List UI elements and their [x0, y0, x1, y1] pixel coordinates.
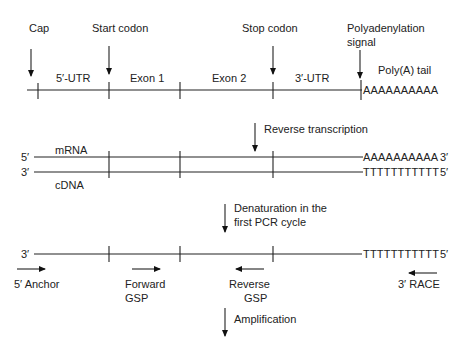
polya-tail-label: Poly(A) tail [378, 64, 431, 77]
race3-label: 3′ RACE [398, 278, 440, 291]
strand-3prime-end: 3′ [21, 248, 29, 261]
mrna-polya-tail: AAAAAAAAAA [363, 151, 438, 164]
cdna-5prime-end: 5′ [440, 166, 448, 179]
amplification-label: Amplification [234, 313, 296, 326]
reverse-gsp-label-line1: Reverse [229, 278, 270, 291]
polya-sequence: AAAAAAAAAA [363, 84, 438, 97]
exon1-label: Exon 1 [130, 72, 164, 85]
forward-gsp-label-line1: Forward [125, 278, 165, 291]
polyadenylation-signal-label-line2: signal [347, 36, 376, 49]
utr3-label: 3′-UTR [295, 72, 329, 85]
reverse-transcription-label: Reverse transcription [264, 123, 368, 136]
mrna-3prime-end: 3′ [440, 151, 448, 164]
forward-gsp-label-line2: GSP [125, 292, 148, 305]
strand-polyt-tail: TTTTTTTTTTT [363, 248, 439, 261]
utr5-label: 5′-UTR [56, 72, 90, 85]
polyadenylation-signal-label-line1: Polyadenylation [347, 22, 425, 35]
strand-5prime-end: 5′ [440, 248, 448, 261]
cdna-polyt-tail: TTTTTTTTTTT [363, 166, 439, 179]
cdna-label: cDNA [55, 179, 84, 192]
cdna-3prime-end: 3′ [21, 166, 29, 179]
denaturation-label-line2: first PCR cycle [234, 216, 306, 229]
stop-codon-label: Stop codon [242, 22, 298, 35]
anchor5-label: 5′ Anchor [14, 278, 59, 291]
exon2-label: Exon 2 [212, 72, 246, 85]
mrna-5prime-end: 5′ [21, 151, 29, 164]
start-codon-label: Start codon [92, 22, 148, 35]
mrna-label: mRNA [55, 144, 87, 157]
reverse-gsp-label-line2: GSP [244, 292, 267, 305]
denaturation-label-line1: Denaturation in the [234, 202, 327, 215]
cap-label: Cap [29, 22, 49, 35]
